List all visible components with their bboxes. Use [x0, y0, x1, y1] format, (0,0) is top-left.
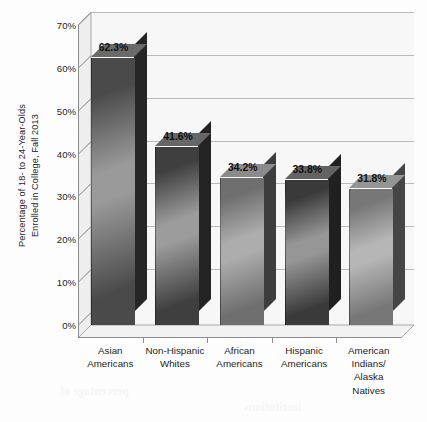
x-axis-category-label-line: Americans — [272, 357, 337, 370]
x-axis-category-label-line: African — [207, 344, 272, 357]
x-axis-category-label: HispanicAmericans — [272, 344, 337, 370]
y-axis-tick-label: 50% — [40, 105, 76, 116]
y-axis-tick-label: 0% — [40, 320, 76, 331]
x-axis-line — [78, 337, 401, 338]
bar-side-face — [198, 121, 211, 312]
x-axis-category-label-line: Non-Hispanic — [143, 344, 208, 357]
x-axis-category-label-line: Alaska — [336, 370, 401, 383]
x-axis-category-labels: AsianAmericansNon-HispanicWhitesAfricanA… — [78, 344, 414, 422]
bar-front-face — [349, 189, 393, 325]
x-axis-category-label: AmericanIndians/AlaskaNatives — [336, 344, 401, 397]
x-axis-category-label-line: Asian — [78, 344, 143, 357]
bar-value-label: 41.6% — [163, 131, 192, 142]
bar: 31.8% — [349, 189, 392, 325]
y-axis-tick-label: 30% — [40, 191, 76, 202]
bar-value-label: 31.8% — [357, 173, 386, 184]
y-axis-title-line-2: Enrolled in College, Fall 2013 — [28, 105, 41, 248]
bar-value-label: 34.2% — [228, 162, 257, 173]
bar-front-face — [220, 178, 264, 325]
x-axis-category-label-line: Whites — [143, 357, 208, 370]
x-axis-tick — [207, 338, 208, 343]
x-axis-category-label-line: Hispanic — [272, 344, 337, 357]
bar-front-face — [155, 147, 199, 325]
x-axis-category-label-line: American — [336, 344, 401, 357]
y-axis-tick-label: 70% — [40, 20, 76, 31]
bar-front-face — [91, 58, 135, 325]
bar-front-face — [285, 180, 329, 325]
plot-area: 62.3%41.6%34.2%33.8%31.8% — [78, 12, 414, 338]
bar-side-face — [134, 32, 147, 312]
y-axis-tick-label: 10% — [40, 277, 76, 288]
x-axis-category-label-line: Indians/ — [336, 357, 401, 370]
x-axis-tick — [336, 338, 337, 343]
x-axis-category-label: Non-HispanicWhites — [143, 344, 208, 370]
gridline — [91, 12, 414, 13]
x-axis-tick — [272, 338, 273, 343]
bar: 33.8% — [285, 180, 328, 325]
bar-value-label: 33.8% — [293, 164, 322, 175]
y-axis-tick-label: 20% — [40, 234, 76, 245]
y-axis-line — [78, 25, 79, 338]
x-axis-tick — [143, 338, 144, 343]
x-axis-category-label-line: Americans — [78, 357, 143, 370]
bar-chart: communitymillionenrollment trendsstudent… — [0, 0, 427, 422]
bar: 41.6% — [155, 147, 198, 325]
x-axis-category-label-line: Natives — [336, 384, 401, 397]
y-axis-tick-labels: 0%10%20%30%40%50%60%70% — [40, 0, 76, 422]
y-axis-title-line-1: Percentage of 18- to 24-Year-Olds — [15, 105, 28, 248]
x-axis-category-label-line: Americans — [207, 357, 272, 370]
bar: 62.3% — [91, 58, 134, 325]
y-axis-tick-label: 60% — [40, 62, 76, 73]
x-axis-category-label: AsianAmericans — [78, 344, 143, 370]
bar-value-label: 62.3% — [99, 42, 128, 53]
y-axis-tick-label: 40% — [40, 148, 76, 159]
x-axis-category-label: AfricanAmericans — [207, 344, 272, 370]
bar: 34.2% — [220, 178, 263, 325]
